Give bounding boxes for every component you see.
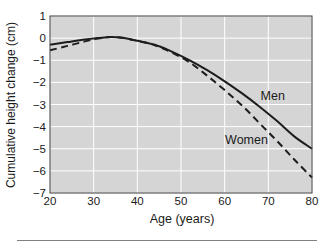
x-tick-label: 40 xyxy=(131,195,144,207)
y-tick-label: 0 xyxy=(18,32,46,44)
x-tick-label: 70 xyxy=(262,195,275,207)
y-axis-title: Cumulative height change (cm) xyxy=(4,5,18,205)
y-tick-label: 1 xyxy=(18,10,46,22)
x-tick-label: 50 xyxy=(175,195,188,207)
y-tick-label: −1 xyxy=(18,54,46,66)
x-tick-label: 80 xyxy=(306,195,319,207)
series-label-men: Men xyxy=(261,89,285,103)
y-tick-label: −4 xyxy=(18,121,46,133)
plot-canvas xyxy=(0,0,332,248)
y-tick-label: −3 xyxy=(18,99,46,111)
y-tick-label: −2 xyxy=(18,76,46,88)
y-tick-label: −6 xyxy=(18,165,46,177)
series-label-women: Women xyxy=(225,133,268,147)
x-tick-label: 30 xyxy=(87,195,100,207)
x-tick-label: 60 xyxy=(218,195,231,207)
bottom-rule xyxy=(17,240,317,241)
figure: Cumulative height change (cm) Age (years… xyxy=(0,0,332,248)
y-tick-label: −7 xyxy=(18,187,46,199)
x-axis-title: Age (years) xyxy=(51,212,313,226)
y-tick-label: −5 xyxy=(18,143,46,155)
